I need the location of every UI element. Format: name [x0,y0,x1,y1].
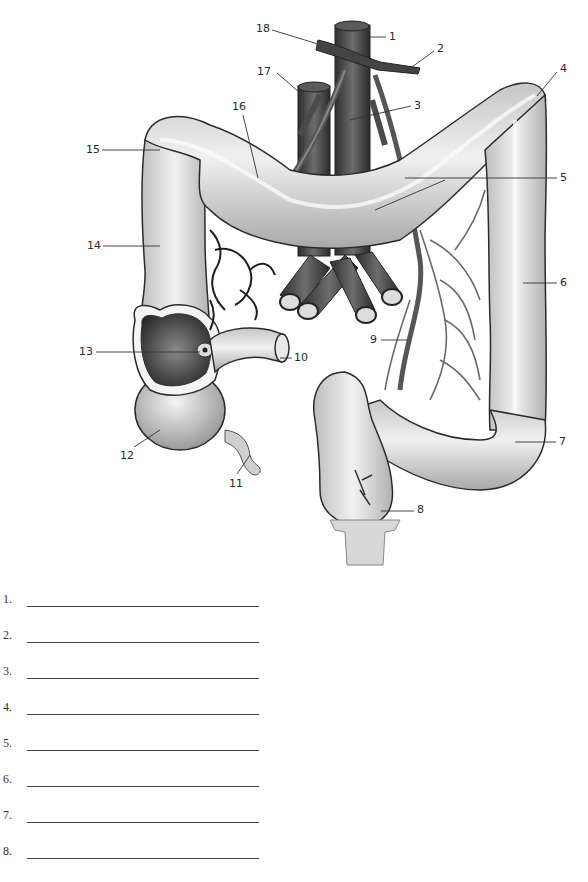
rectum [314,372,393,525]
common-iliac-vessels [280,252,402,323]
answer-field-5[interactable] [27,750,259,751]
answer-number: 7. [3,808,12,823]
answer-number: 4. [3,700,12,715]
large-intestine-diagram [0,0,588,580]
answer-field-3[interactable] [27,678,259,679]
callout-11: 11 [229,478,243,490]
ileum [210,328,285,372]
answer-field-7[interactable] [27,822,259,823]
answer-row-1: 1. [3,592,263,612]
callout-6: 6 [560,277,567,289]
callout-14: 14 [87,240,101,252]
answer-field-8[interactable] [27,858,259,859]
answer-sheet: 1. 2. 3. 4. 5. 6. 7. 8. [0,580,588,882]
callout-9: 9 [370,334,377,346]
callout-7: 7 [559,436,566,448]
appendix [225,430,260,475]
answer-row-6: 6. [3,772,263,792]
answer-row-2: 2. [3,628,263,648]
callout-1: 1 [389,31,396,43]
answer-row-7: 7. [3,808,263,828]
answer-number: 2. [3,628,12,643]
answer-row-4: 4. [3,700,263,720]
callout-2: 2 [437,43,444,55]
answer-field-2[interactable] [27,642,259,643]
callout-17: 17 [257,66,271,78]
answer-number: 6. [3,772,12,787]
callout-15: 15 [86,144,100,156]
answer-number: 5. [3,736,12,751]
callout-12: 12 [120,450,134,462]
answer-number: 1. [3,592,12,607]
answer-field-6[interactable] [27,786,259,787]
callout-4: 4 [560,63,567,75]
answer-field-1[interactable] [27,606,259,607]
callout-18: 18 [256,23,270,35]
callout-3: 3 [414,100,421,112]
answer-row-5: 5. [3,736,263,756]
answer-number: 8. [3,844,12,859]
ileocolic-vessels [210,230,275,330]
answer-row-3: 3. [3,664,263,684]
callout-13: 13 [79,346,93,358]
answer-number: 3. [3,664,12,679]
anal-canal [330,520,400,565]
answer-row-8: 8. [3,844,263,864]
answer-field-4[interactable] [27,714,259,715]
callout-8: 8 [417,504,424,516]
callout-16: 16 [232,101,246,113]
callout-5: 5 [560,172,567,184]
callout-10: 10 [294,352,308,364]
